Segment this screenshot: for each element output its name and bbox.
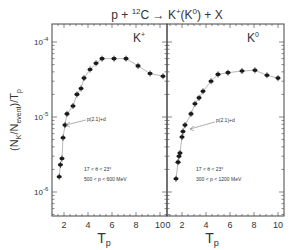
data-point	[111, 57, 116, 61]
left-panel-frame	[52, 24, 167, 216]
data-point	[99, 57, 104, 61]
svg-text:4: 4	[85, 220, 90, 230]
data-point	[58, 163, 63, 167]
data-point	[60, 136, 65, 140]
data-point	[64, 112, 69, 116]
ytick-1e-6: 10-6	[34, 186, 49, 197]
right-arrow-annotation: p(2.1)+d	[190, 117, 235, 131]
figure-title: p + 12C → K+(K0) + X	[111, 7, 222, 22]
data-point	[196, 96, 201, 100]
data-point	[275, 76, 280, 80]
right-panel-label-kzero: K0	[247, 31, 259, 45]
right-cut-annotations: 17 < θ < 23° 300 < p < 1200 MeV	[196, 166, 242, 182]
series-line	[59, 59, 163, 177]
svg-text:10: 10	[273, 220, 283, 230]
left-cut-annotations: 17 < θ < 23° 500 < p < 600 MeV	[84, 166, 127, 182]
left-x-axis-label: Tp	[97, 230, 111, 248]
data-point	[208, 79, 213, 83]
left-panel-label-kplus: K+	[133, 31, 145, 45]
data-point	[176, 154, 181, 158]
data-point	[177, 151, 182, 155]
data-point	[93, 61, 98, 65]
series-line	[176, 70, 278, 179]
data-point	[87, 68, 92, 72]
data-point	[175, 160, 180, 164]
svg-text:17 < θ < 23°: 17 < θ < 23°	[196, 166, 223, 172]
svg-text:2: 2	[179, 220, 184, 230]
data-point	[78, 87, 83, 91]
data-point	[180, 130, 185, 134]
data-point	[147, 72, 152, 76]
kaon-production-figure: p + 12C → K+(K0) + X (NK/Nevent)/Tp 10-4…	[0, 0, 298, 250]
data-point	[59, 157, 64, 161]
data-point	[264, 73, 269, 77]
data-point	[57, 175, 62, 179]
y-axis-label: (NK/Nevent)/Tp	[8, 89, 23, 151]
data-point	[74, 93, 79, 97]
data-point	[81, 76, 86, 80]
svg-text:10: 10	[155, 220, 165, 230]
left-x-tick-labels: 2 4 6 8 10	[61, 220, 165, 230]
data-point	[215, 73, 220, 77]
svg-text:p(2.1)+d: p(2.1)+d	[216, 117, 235, 123]
svg-text:6: 6	[109, 220, 114, 230]
data-point	[239, 69, 244, 73]
svg-text:6: 6	[227, 220, 232, 230]
right-kzero-series	[173, 67, 280, 182]
left-arrow-annotation: p(2.1)+d	[66, 116, 106, 127]
right-x-axis-label: Tp	[205, 230, 219, 248]
svg-text:300 < p < 1200 MeV: 300 < p < 1200 MeV	[196, 176, 242, 182]
left-kplus-series	[57, 56, 166, 180]
data-point	[252, 68, 257, 72]
ytick-1e-5: 10-5	[34, 111, 49, 122]
svg-text:0: 0	[165, 220, 170, 230]
svg-text:p(2.1)+d: p(2.1)+d	[87, 116, 106, 122]
right-x-tick-labels: 0 2 4 6 8 10	[165, 220, 283, 230]
data-point	[225, 71, 230, 75]
data-point	[182, 123, 187, 127]
data-point	[135, 64, 140, 68]
svg-text:500 < p < 600 MeV: 500 < p < 600 MeV	[84, 176, 127, 182]
data-point	[70, 104, 75, 108]
data-point	[200, 90, 205, 94]
data-point	[188, 112, 193, 116]
data-point	[173, 177, 178, 181]
data-point	[192, 102, 197, 106]
data-point	[160, 74, 165, 78]
data-point	[179, 135, 184, 139]
svg-text:8: 8	[133, 220, 138, 230]
ytick-1e-4: 10-4	[34, 36, 49, 47]
svg-text:17 < θ < 23°: 17 < θ < 23°	[84, 166, 111, 172]
data-point	[123, 57, 128, 61]
svg-text:8: 8	[251, 220, 256, 230]
y-tick-labels: 10-4 10-5 10-6	[34, 36, 49, 197]
svg-text:2: 2	[61, 220, 66, 230]
svg-text:4: 4	[203, 220, 208, 230]
